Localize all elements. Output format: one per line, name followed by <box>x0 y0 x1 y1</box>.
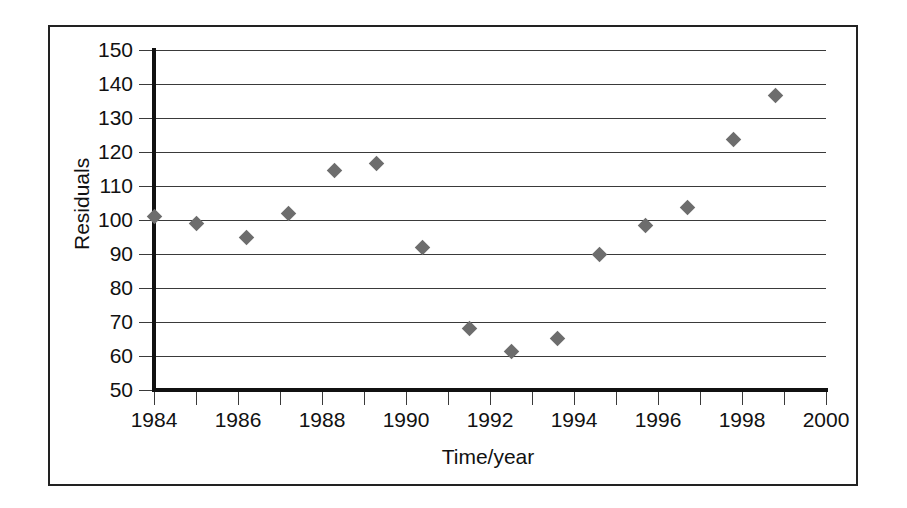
y-axis-tick <box>139 322 152 323</box>
x-axis-minor-tick <box>196 392 197 405</box>
data-point-marker <box>281 205 297 221</box>
y-axis-tick <box>139 152 152 153</box>
y-axis-tick <box>139 254 152 255</box>
y-axis-tick-label: 50 <box>73 379 133 400</box>
data-point-marker <box>503 344 519 360</box>
y-axis-tick-label: 140 <box>73 73 133 94</box>
x-axis-tick <box>490 392 491 405</box>
x-axis-minor-tick <box>700 392 701 405</box>
y-axis-tick <box>139 390 152 391</box>
data-point-marker <box>369 156 385 172</box>
x-axis-tick <box>154 392 155 405</box>
x-axis-tick-label: 1990 <box>361 409 451 430</box>
y-axis-tick <box>139 288 152 289</box>
x-axis-title: Time/year <box>152 445 824 469</box>
x-axis-minor-tick <box>784 392 785 405</box>
gridline-horizontal <box>152 322 826 323</box>
data-point-marker <box>327 163 343 179</box>
gridline-horizontal <box>152 186 826 187</box>
y-axis-tick <box>139 118 152 119</box>
x-axis-minor-tick <box>532 392 533 405</box>
x-axis-minor-tick <box>364 392 365 405</box>
data-point-marker <box>188 216 204 232</box>
gridline-horizontal <box>152 220 826 221</box>
data-point-marker <box>461 321 477 337</box>
data-point-marker <box>768 88 784 104</box>
x-axis-tick <box>238 392 239 405</box>
y-axis-tick <box>139 186 152 187</box>
x-axis-tick <box>658 392 659 405</box>
gridline-horizontal <box>152 288 826 289</box>
x-axis-tick-label: 1998 <box>697 409 787 430</box>
y-axis-tick <box>139 50 152 51</box>
x-axis-tick <box>322 392 323 405</box>
x-axis-tick <box>406 392 407 405</box>
y-axis-title: Residuals <box>70 158 94 250</box>
x-axis-tick <box>826 392 827 405</box>
x-axis-tick-label: 1986 <box>193 409 283 430</box>
gridline-horizontal <box>152 356 826 357</box>
data-point-marker <box>549 331 565 347</box>
data-point-marker <box>680 200 696 216</box>
gridline-horizontal <box>152 254 826 255</box>
gridline-horizontal <box>152 152 826 153</box>
data-point-marker <box>726 132 742 148</box>
x-axis-tick-label: 1984 <box>109 409 199 430</box>
x-axis-tick-label: 1996 <box>613 409 703 430</box>
x-axis-tick <box>742 392 743 405</box>
x-axis-tick <box>574 392 575 405</box>
y-axis-tick-label: 150 <box>73 39 133 60</box>
x-axis-minor-tick <box>448 392 449 405</box>
x-axis-tick-label: 1992 <box>445 409 535 430</box>
y-axis-tick <box>139 356 152 357</box>
data-point-marker <box>591 247 607 263</box>
x-axis-tick-label: 1988 <box>277 409 367 430</box>
x-axis-minor-tick <box>616 392 617 405</box>
x-axis-minor-tick <box>280 392 281 405</box>
x-axis-tick-label: 2000 <box>781 409 871 430</box>
y-axis-tick <box>139 84 152 85</box>
gridline-horizontal <box>152 84 826 85</box>
gridline-horizontal <box>152 118 826 119</box>
data-point-marker <box>146 209 162 225</box>
gridline-horizontal <box>152 50 826 51</box>
x-axis-tick-label: 1994 <box>529 409 619 430</box>
y-axis-title-container: Residuals <box>82 100 112 360</box>
data-point-marker <box>239 230 255 246</box>
figure-frame: 5060708090100110120130140150198419861988… <box>48 25 858 486</box>
